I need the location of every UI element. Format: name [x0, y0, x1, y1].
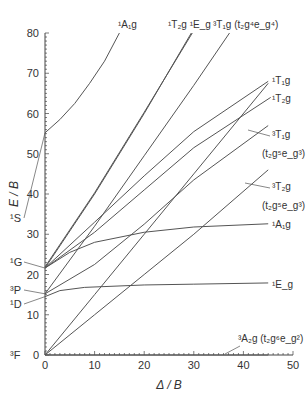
free-ion-term-label: ³F	[10, 349, 21, 361]
state-label: (t₂g⁵e_g³)	[262, 148, 305, 159]
series-line	[45, 33, 119, 133]
state-label: ³T₂g	[272, 181, 291, 192]
y-tick-label: 10	[27, 309, 39, 321]
term-labels: ³F¹D³P¹G¹S¹A₁g¹T₂g ¹E_g³T₁g (t₂g⁴e_g⁴)¹T…	[10, 19, 305, 361]
free-ion-term-label: ¹S	[10, 212, 21, 224]
series-line	[45, 81, 268, 268]
series-line	[45, 170, 268, 355]
tanabe-sugano-diagram: 0102030405001020304050607080Δ / BE / B ³…	[0, 0, 308, 395]
x-tick-label: 30	[188, 359, 200, 371]
state-label: ¹E_g	[272, 279, 293, 290]
y-tick-label: 50	[27, 148, 39, 160]
state-label: ¹T₁g	[272, 75, 290, 86]
y-tick-label: 70	[27, 67, 39, 79]
state-label: ¹A₁g	[118, 19, 137, 30]
x-axis-title: Δ / B	[155, 378, 182, 392]
y-tick-label: 80	[27, 27, 39, 39]
series-line	[45, 126, 268, 294]
state-label: ¹T₂g ¹E_g	[168, 19, 211, 30]
state-label: ³T₁g (t₂g⁴e_g⁴)	[213, 19, 278, 30]
state-label: ¹A₁g	[272, 219, 291, 230]
free-ion-term-label: ³P	[10, 284, 21, 296]
series-line	[45, 83, 268, 355]
x-tick-label: 50	[287, 359, 299, 371]
free-ion-term-label: ¹D	[10, 298, 22, 310]
state-label: (t₂g⁵e_g³)	[262, 200, 305, 211]
series-line	[45, 33, 191, 268]
plot-lines	[45, 33, 271, 355]
series-line	[45, 283, 268, 297]
x-tick-label: 0	[42, 359, 48, 371]
y-tick-label: 30	[27, 228, 39, 240]
state-label: ³T₁g	[272, 129, 290, 140]
free-ion-term-label: ¹G	[10, 256, 22, 268]
x-tick-label: 10	[88, 359, 100, 371]
y-tick-label: 60	[27, 108, 39, 120]
state-label: ³A₂g (t₂g⁶e_g²)	[238, 333, 303, 344]
x-tick-label: 20	[138, 359, 150, 371]
x-tick-label: 40	[237, 359, 249, 371]
y-tick-label: 0	[33, 349, 39, 361]
series-line	[45, 97, 271, 268]
y-tick-label: 20	[27, 269, 39, 281]
state-label: ¹T₂g	[272, 93, 291, 104]
chart-canvas: 0102030405001020304050607080Δ / BE / B ³…	[0, 0, 308, 395]
series-line	[45, 224, 268, 268]
y-axis-title: E / B	[7, 181, 21, 207]
